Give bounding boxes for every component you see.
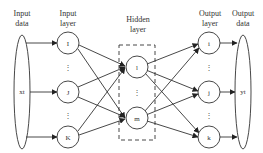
header-output-data: Output data [232,9,255,28]
hidden-node-m: m [126,107,148,129]
header-hidden-layer: Hidden layer [126,15,150,34]
svg-text:j: j [207,89,210,97]
svg-text:Output: Output [232,9,255,18]
input-node-J: J [57,81,79,103]
svg-text:i: i [208,40,210,48]
svg-text:Hidden: Hidden [126,15,150,24]
input-arrows [26,43,57,137]
output-node-k: k [198,126,220,148]
output-node-i: i [198,32,220,54]
svg-text:J: J [67,89,70,97]
input-data-label: xt [19,88,25,96]
output-arrows [220,43,237,137]
svg-text:data: data [236,19,250,28]
output-data-label: yt [240,88,246,96]
svg-text:data: data [15,19,29,28]
output-ellipsis-2: ⋮ [205,111,213,120]
svg-text:layer: layer [60,19,76,28]
hidden-output-connections [145,44,199,137]
svg-text:layer: layer [130,25,146,34]
svg-text:layer: layer [202,19,218,28]
hidden-ellipsis: ⋮ [133,88,141,97]
header-input-data: Input data [14,9,32,28]
neural-network-diagram: Input data Input layer Hidden layer Outp… [0,0,263,153]
svg-text:Input: Input [60,9,78,18]
hidden-node-l: l [126,56,148,78]
svg-text:K: K [65,134,70,142]
input-ellipsis-2: ⋮ [64,111,72,120]
input-node-K: K [57,126,79,148]
output-ellipsis: ⋮ [205,63,213,72]
output-node-j: j [198,81,220,103]
header-output-layer: Output layer [199,9,222,28]
input-node-I: I [57,32,79,54]
input-ellipsis: ⋮ [64,63,72,72]
input-hidden-connections [78,45,125,135]
svg-text:k: k [207,134,211,142]
svg-text:m: m [134,115,140,123]
header-input-layer: Input layer [60,9,78,28]
svg-text:l: l [136,64,138,72]
svg-text:Output: Output [199,9,222,18]
svg-text:Input: Input [14,9,32,18]
